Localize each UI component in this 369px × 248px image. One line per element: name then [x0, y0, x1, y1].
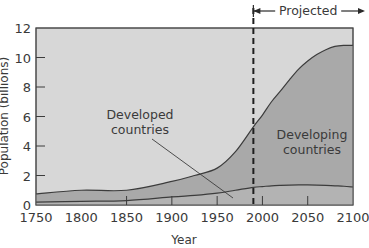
x-tick-label: 1950 [201, 210, 234, 225]
developing-label-line1: Developing [277, 127, 348, 142]
arrow-left-icon [253, 8, 260, 14]
projected-annotation: Projected [253, 3, 365, 18]
y-tick-label: 4 [23, 139, 31, 154]
developed-label-line2: countries [111, 122, 169, 137]
y-axis-title: Population (billions) [0, 57, 11, 175]
x-tick-label: 2050 [291, 210, 324, 225]
y-tick-label: 8 [23, 80, 31, 95]
x-axis-title: Year [170, 233, 196, 247]
y-tick-label: 10 [14, 51, 31, 66]
x-tick-label: 2100 [336, 210, 369, 225]
y-tick-label: 12 [14, 21, 31, 36]
population-chart: 024681012 175018001850190019502000205021… [0, 0, 369, 248]
arrow-right-icon [358, 8, 365, 14]
developing-label-line2: countries [283, 142, 341, 157]
y-tick-label: 6 [23, 110, 31, 125]
x-tick-label: 1750 [19, 210, 52, 225]
x-tick-label: 1800 [65, 210, 98, 225]
developed-label-line1: Developed [106, 107, 173, 122]
y-tick-label: 2 [23, 169, 31, 184]
x-tick-label: 2000 [246, 210, 279, 225]
x-tick-label: 1900 [155, 210, 188, 225]
projected-label: Projected [279, 3, 337, 18]
x-tick-label: 1850 [110, 210, 143, 225]
